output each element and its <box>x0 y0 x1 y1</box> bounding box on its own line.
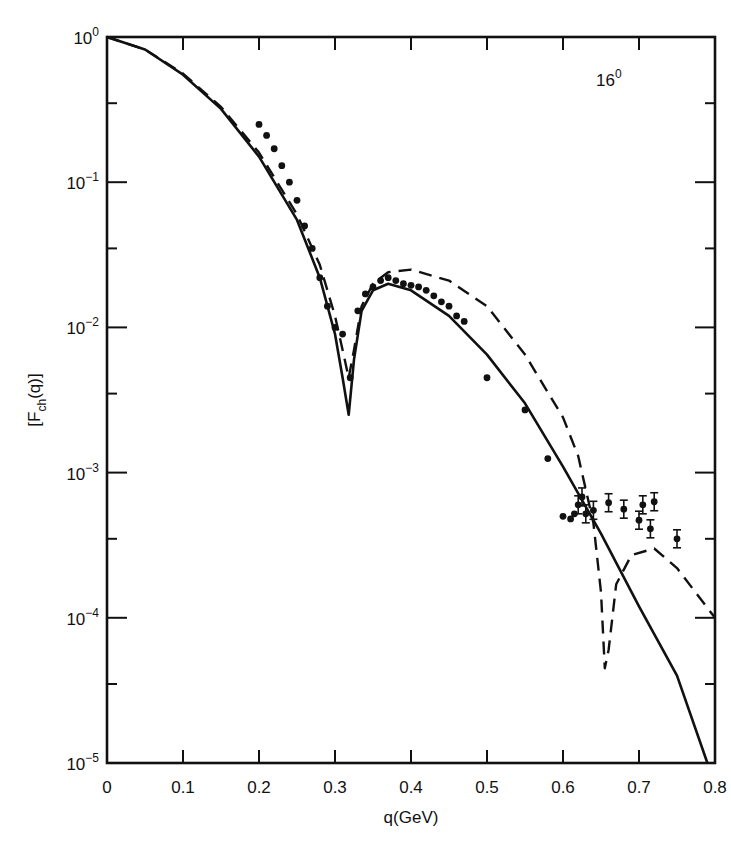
data-point <box>301 223 308 230</box>
data-point <box>370 284 377 291</box>
y-tick-label: 10−1 <box>66 170 99 193</box>
axis-labels: 00.10.20.30.40.50.60.70.810010−110−210−3… <box>25 25 727 827</box>
axis-ticks <box>107 37 715 763</box>
x-tick-label: 0.4 <box>399 778 423 797</box>
y-tick-label: 10−5 <box>66 751 99 774</box>
data-point <box>278 162 285 169</box>
data-point <box>484 374 491 381</box>
data-point <box>392 277 399 284</box>
nucleus-annotation: 160 <box>596 67 622 90</box>
data-point <box>423 287 430 294</box>
data-point <box>263 132 270 139</box>
plot-canvas: 00.10.20.30.40.50.60.70.810010−110−210−3… <box>0 0 731 845</box>
axes-box <box>107 37 715 763</box>
data-point <box>377 277 384 284</box>
data-point <box>461 318 468 325</box>
data-point <box>385 274 392 281</box>
solid-theory-curve <box>107 37 707 763</box>
data-point <box>430 292 437 299</box>
data-point <box>324 303 331 310</box>
data-point <box>256 121 263 128</box>
x-tick-label: 0.6 <box>551 778 575 797</box>
y-tick-label: 10−2 <box>66 315 99 338</box>
plot-frame <box>107 37 715 763</box>
data-point <box>316 274 323 281</box>
data-point <box>400 280 407 287</box>
data-point <box>271 145 278 152</box>
x-tick-label: 0.2 <box>247 778 271 797</box>
data-point <box>522 407 529 414</box>
x-tick-label: 0.8 <box>703 778 727 797</box>
chart: 00.10.20.30.40.50.60.70.810010−110−210−3… <box>0 0 731 845</box>
dashed-theory-curve <box>107 37 715 668</box>
data-point <box>354 307 361 314</box>
data-point <box>438 298 445 305</box>
data-point <box>332 324 339 331</box>
data-point <box>362 291 369 298</box>
x-tick-label: 0 <box>102 778 111 797</box>
x-axis-title: q(GeV) <box>384 808 439 827</box>
data-point <box>544 455 551 462</box>
data-point <box>309 245 316 252</box>
x-tick-label: 0.5 <box>475 778 499 797</box>
curves <box>107 37 715 763</box>
x-tick-label: 0.1 <box>171 778 195 797</box>
data-point <box>415 284 422 291</box>
y-tick-label: 10−4 <box>66 606 99 629</box>
data-point <box>294 197 301 204</box>
y-axis-title: [Fch(q)] <box>25 373 49 426</box>
data-point <box>339 331 346 338</box>
x-tick-label: 0.3 <box>323 778 347 797</box>
data-point <box>446 303 453 310</box>
y-tick-label: 100 <box>73 25 99 48</box>
x-tick-label: 0.7 <box>627 778 651 797</box>
data-point <box>453 313 460 320</box>
data-point <box>560 513 567 520</box>
data-point <box>347 374 354 381</box>
data-point <box>408 282 415 289</box>
y-tick-label: 10−3 <box>66 461 99 484</box>
data-point <box>286 179 293 186</box>
